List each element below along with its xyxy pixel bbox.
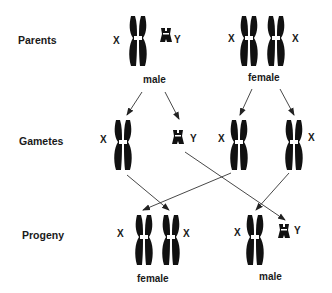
gamete-male-x-chromosome — [114, 120, 131, 170]
gamete-female-x1-chromosome — [230, 120, 247, 170]
gamete-male-y-label: Y — [190, 133, 197, 144]
row-label-parents: Parents — [18, 34, 57, 46]
parent-female-x1-chromosome — [240, 16, 257, 66]
arrow-female-x2-to-male-progeny — [256, 173, 289, 210]
parent-female-x2-chromosome — [267, 16, 284, 66]
gamete-female-x2-label: X — [308, 132, 315, 143]
parent-male-x-chromosome — [129, 16, 146, 66]
progeny-female-label: female — [137, 273, 169, 284]
arrow-male-x-to-female-progeny — [127, 175, 169, 210]
arrow-female-to-x1-gamete — [240, 89, 252, 115]
progeny-male-label: male — [259, 271, 282, 282]
progeny-female-x1-chromosome — [135, 215, 152, 265]
progeny-male-x-label: X — [234, 227, 241, 238]
parent-female-x1-label: X — [228, 33, 235, 44]
parent-female-x2-label: X — [292, 33, 299, 44]
gamete-male-y-chromosome — [172, 130, 184, 144]
parent-male-x-label: X — [113, 35, 120, 46]
arrow-female-to-x2-gamete — [280, 89, 294, 115]
row-label-progeny: Progeny — [22, 229, 64, 241]
gamete-female-x2-chromosome — [285, 120, 302, 170]
parent-female-label: female — [248, 72, 280, 83]
arrow-male-to-x-gamete — [127, 92, 142, 115]
parent-male-label: male — [143, 74, 166, 85]
progeny-female-x1-label: X — [117, 228, 124, 239]
gamete-male-x-label: X — [100, 134, 107, 145]
progeny-female-x2-label: X — [183, 228, 190, 239]
inheritance-diagram: Parents Gametes Progeny X Y X X male fem… — [0, 0, 332, 293]
progeny-male-x-chromosome — [246, 215, 263, 265]
parent-male-y-label: Y — [174, 34, 181, 45]
parent-male-y-chromosome — [160, 28, 172, 42]
row-label-gametes: Gametes — [19, 135, 63, 147]
arrows — [127, 89, 294, 220]
progeny-female-x2-chromosome — [162, 215, 179, 265]
progeny-male-y-label: Y — [294, 225, 301, 236]
arrow-male-to-y-gamete — [165, 92, 179, 119]
gamete-female-x1-label: X — [218, 133, 225, 144]
arrow-female-x1-to-female-progeny — [143, 173, 231, 210]
progeny-male-y-chromosome — [278, 224, 290, 238]
